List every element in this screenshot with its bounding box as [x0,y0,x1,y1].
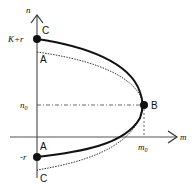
tick-minus-r: -r [20,152,27,162]
label-b: B [151,100,158,111]
label-c-bottom: C [40,173,47,184]
dotted-curve [37,52,142,170]
point-k-plus-r [33,35,41,43]
x-axis-label: m [180,132,187,142]
solid-curve [37,39,143,157]
label-a-top: A [40,54,47,65]
point-minus-r [33,153,41,161]
y-axis-label: n [26,5,31,15]
diagram-canvas: n m K+r n0 -r m0 C A B A C [0,0,196,187]
point-b [140,101,148,109]
label-c-top: C [42,25,49,36]
label-a-bottom: A [40,141,47,152]
tick-m0: m0 [138,142,148,153]
tick-k-plus-r: K+r [7,34,24,44]
tick-n0: n0 [20,100,28,111]
